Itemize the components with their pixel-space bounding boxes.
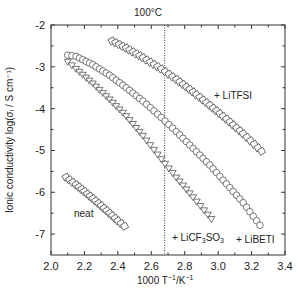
series--licf-so- [64, 59, 215, 222]
x-tick-label: 3.4 [277, 260, 292, 272]
x-tick-label: 2.8 [177, 260, 192, 272]
y-tick-label: -2 [35, 19, 45, 31]
annotation-libeti: + LiBETI [236, 234, 275, 245]
data-series [62, 37, 266, 230]
annotation-licf3so3: + LiCF3SO3 [172, 232, 224, 244]
series-neat [62, 173, 129, 230]
y-axis-label: Ionic conductivity log(σᵢ / S cm⁻¹) [4, 67, 15, 213]
y-tick-label: -3 [35, 61, 45, 73]
x-tick-label: 2.0 [43, 260, 58, 272]
x-tick-label: 2.2 [77, 260, 92, 272]
x-tick-label: 2.6 [144, 260, 159, 272]
conductivity-chart: 2.02.22.42.62.83.03.23.4-2-3-4-5-6-7 100… [0, 0, 298, 301]
annotation-neat: neat [74, 208, 94, 219]
x-tick-label: 2.4 [110, 260, 125, 272]
annotation-litfsi: + LiTFSI [214, 90, 252, 101]
x-tick-label: 3.2 [244, 260, 259, 272]
y-tick-label: -4 [35, 103, 45, 115]
x-axis-label: 1000 T−1/K−1 [137, 274, 193, 286]
y-tick-label: -7 [35, 228, 45, 240]
reference-line-label: 100°C [134, 7, 162, 18]
y-tick-label: -5 [35, 144, 45, 156]
y-tick-label: -6 [35, 186, 45, 198]
x-tick-label: 3.0 [210, 260, 225, 272]
